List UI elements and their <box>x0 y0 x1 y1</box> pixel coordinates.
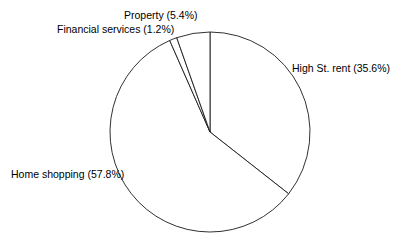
slice-label-financial-services: Financial services (1.2%) <box>57 23 174 35</box>
slice-label-property: Property (5.4%) <box>124 9 198 21</box>
pie-chart-canvas <box>0 0 402 246</box>
slice-label-high-st-rent: High St. rent (35.6%) <box>292 62 390 74</box>
pie-slices-group <box>110 32 310 232</box>
pie-chart-figure: Property (5.4%) Financial services (1.2%… <box>0 0 402 246</box>
slice-label-home-shopping: Home shopping (57.8%) <box>11 168 124 180</box>
